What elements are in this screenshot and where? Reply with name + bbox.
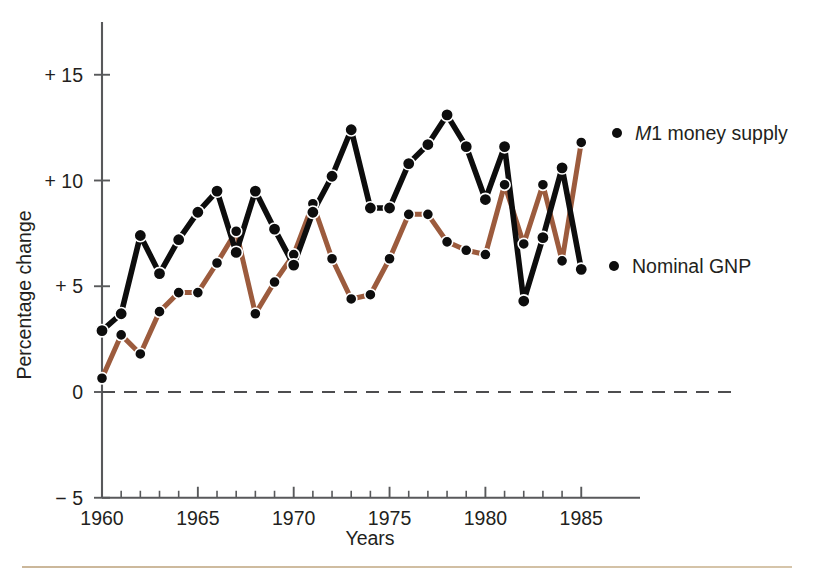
- data-point-m1: [383, 202, 395, 214]
- data-point-m1: [192, 206, 204, 218]
- data-point-gnp: [556, 255, 567, 266]
- y-axis-title: Percentage change: [13, 210, 35, 379]
- data-point-m1: [364, 202, 376, 214]
- data-point-m1: [518, 295, 530, 307]
- data-point-m1: [460, 140, 472, 152]
- data-point-m1: [211, 185, 223, 197]
- data-point-gnp: [250, 308, 261, 319]
- chart-figure: + 15+ 10+ 50− 5196019651970197519801985P…: [0, 0, 813, 582]
- legend-marker-m1: [612, 128, 622, 138]
- data-point-m1: [249, 185, 261, 197]
- data-point-gnp: [231, 226, 242, 237]
- x-axis-tick-label: 1975: [368, 507, 412, 529]
- data-point-gnp: [192, 287, 203, 298]
- data-point-m1: [422, 138, 434, 150]
- x-axis-tick-label: 1985: [560, 507, 604, 529]
- x-axis-tick-label: 1965: [176, 507, 220, 529]
- legend-marker-gnp: [609, 261, 619, 271]
- data-point-gnp: [116, 329, 127, 340]
- x-axis-tick-label: 1980: [464, 507, 508, 529]
- data-point-m1: [96, 324, 108, 336]
- data-point-gnp: [365, 289, 376, 300]
- x-axis-title: Years: [345, 527, 394, 549]
- data-point-gnp: [480, 249, 491, 260]
- data-point-m1: [441, 109, 453, 121]
- x-axis-tick-label: 1970: [272, 507, 316, 529]
- data-point-m1: [575, 263, 587, 275]
- data-point-m1: [115, 308, 127, 320]
- data-point-gnp: [537, 179, 548, 190]
- data-point-m1: [230, 246, 242, 258]
- data-point-gnp: [499, 179, 510, 190]
- data-point-gnp: [422, 209, 433, 220]
- data-point-gnp: [211, 257, 222, 268]
- data-point-gnp: [518, 238, 529, 249]
- data-point-gnp: [96, 373, 107, 384]
- legend-label-m1: M1 money supply: [635, 122, 788, 144]
- y-axis-tick-label: + 5: [55, 275, 83, 297]
- data-point-m1: [134, 229, 146, 241]
- y-axis-tick-label: 0: [72, 381, 83, 403]
- data-point-m1: [326, 170, 338, 182]
- data-point-gnp: [403, 209, 414, 220]
- y-axis-tick-label: + 15: [45, 64, 84, 86]
- data-point-m1: [556, 162, 568, 174]
- data-point-m1: [498, 140, 510, 152]
- data-point-gnp: [346, 293, 357, 304]
- data-point-gnp: [269, 276, 280, 287]
- data-point-m1: [403, 157, 415, 169]
- data-point-m1: [479, 193, 491, 205]
- data-point-m1: [268, 223, 280, 235]
- y-axis-tick-label: + 10: [45, 170, 84, 192]
- data-point-gnp: [384, 253, 395, 264]
- data-point-gnp: [576, 137, 587, 148]
- x-axis-tick-label: 1960: [80, 507, 124, 529]
- data-point-gnp: [441, 236, 452, 247]
- data-point-m1: [307, 206, 319, 218]
- chart-canvas: + 15+ 10+ 50− 5196019651970197519801985P…: [0, 0, 813, 582]
- bottom-rule-divider: [22, 566, 792, 568]
- data-point-gnp: [461, 245, 472, 256]
- data-point-gnp: [326, 253, 337, 264]
- data-point-gnp: [173, 287, 184, 298]
- legend-label-gnp: Nominal GNP: [632, 255, 751, 277]
- data-point-m1: [153, 267, 165, 279]
- data-point-gnp: [135, 348, 146, 359]
- y-axis-tick-label: − 5: [55, 487, 83, 509]
- data-point-m1: [172, 234, 184, 246]
- data-point-m1: [345, 124, 357, 136]
- data-point-gnp: [154, 306, 165, 317]
- data-point-m1: [537, 231, 549, 243]
- data-point-m1: [288, 259, 300, 271]
